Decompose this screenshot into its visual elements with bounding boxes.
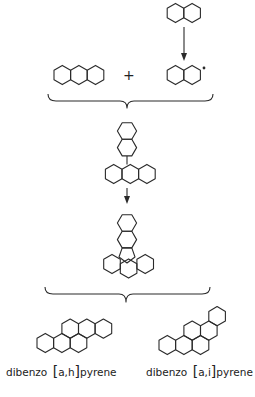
arrow-down-icon [124,188,130,204]
reaction-diagram: + dibenzo [0,0,255,397]
naphthyl-radical-molecule [167,65,200,84]
plus-operator: + [123,67,135,83]
product-label-ah: dibenzo [a,h]pyrene [6,363,117,379]
anthracene-molecule [54,65,104,84]
radical-dot [203,67,206,70]
product-label-ai: dibenzo [a,i]pyrene [146,363,253,379]
dibenzo-ah-pyrene-molecule [37,319,112,353]
products-brace [45,287,210,302]
cyclized-intermediate [104,215,154,278]
naphthalene-molecule [167,3,200,22]
dibenzo-ai-pyrene-molecule [159,307,225,355]
combine-brace [48,94,213,108]
arrow-down-icon [181,27,187,61]
naphthyl-anthracene-adduct [105,123,155,184]
